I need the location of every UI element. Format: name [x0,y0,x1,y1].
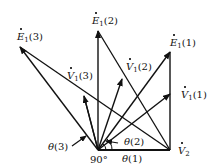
label-theta3: θ(3) [48,142,68,152]
label-v1-2: V1(2) [126,62,152,74]
label-v1-1: V1(1) [181,90,207,102]
label-e1-2: E1(2) [92,16,118,28]
jx-drop-2 [98,31,170,150]
label-theta2: θ(2) [124,137,144,147]
label-theta1: θ(1) [122,154,142,164]
label-e1-3: E1(3) [17,32,43,44]
label-v1-3: V1(3) [67,71,93,83]
theta3-pointer [72,136,86,146]
label-v2: V2 [178,146,190,158]
label-right-angle: 90° [90,155,108,165]
e1-3-phasor [20,47,98,150]
label-e1-1: E1(1) [170,38,196,50]
